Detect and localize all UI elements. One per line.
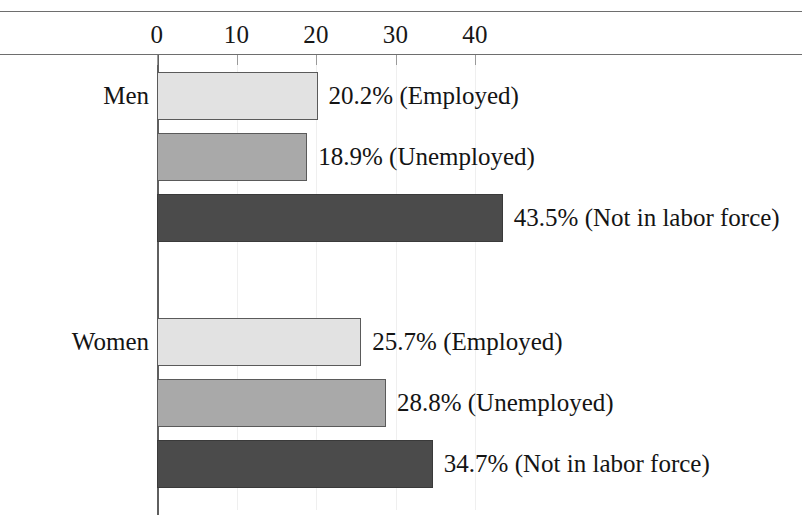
x-axis-tick-mark [237,55,238,65]
cropped-title-remnant [160,0,490,5]
bar-value-label: 34.7% (Not in labor force) [444,450,710,478]
bar-men-employed [157,72,318,120]
bar-men-unemployed [157,133,307,181]
x-axis-tick-label: 40 [449,18,501,51]
x-axis-tick-label: 0 [131,18,183,51]
bar-women-employed [157,318,361,366]
bar-value-label: 28.8% (Unemployed) [397,389,614,417]
x-axis-tick-mark [157,55,158,65]
x-axis-tick-label: 30 [370,18,422,51]
x-axis-tick-label: 10 [211,18,263,51]
plot-area: 20.2% (Employed)18.9% (Unemployed)43.5% … [0,55,802,518]
bar-value-label: 20.2% (Employed) [329,82,519,110]
bar-men-notinlaborforce [157,194,503,242]
bar-value-label: 43.5% (Not in labor force) [514,204,780,232]
x-axis-tick-mark [396,55,397,65]
bar-value-label: 18.9% (Unemployed) [318,143,535,171]
bar-women-unemployed [157,379,386,427]
x-axis-tick-label: 20 [290,18,342,51]
group-label-women: Women [0,328,149,356]
x-axis-tick-mark [316,55,317,65]
bar-chart-figure: 010203040 20.2% (Employed)18.9% (Unemplo… [0,0,802,518]
gridline [475,55,476,510]
group-label-men: Men [0,82,149,110]
x-axis-tick-mark [475,55,476,65]
top-rule [0,11,802,12]
x-axis-tick-labels: 010203040 [0,18,802,51]
bar-value-label: 25.7% (Employed) [372,328,562,356]
bar-women-notinlaborforce [157,440,433,488]
